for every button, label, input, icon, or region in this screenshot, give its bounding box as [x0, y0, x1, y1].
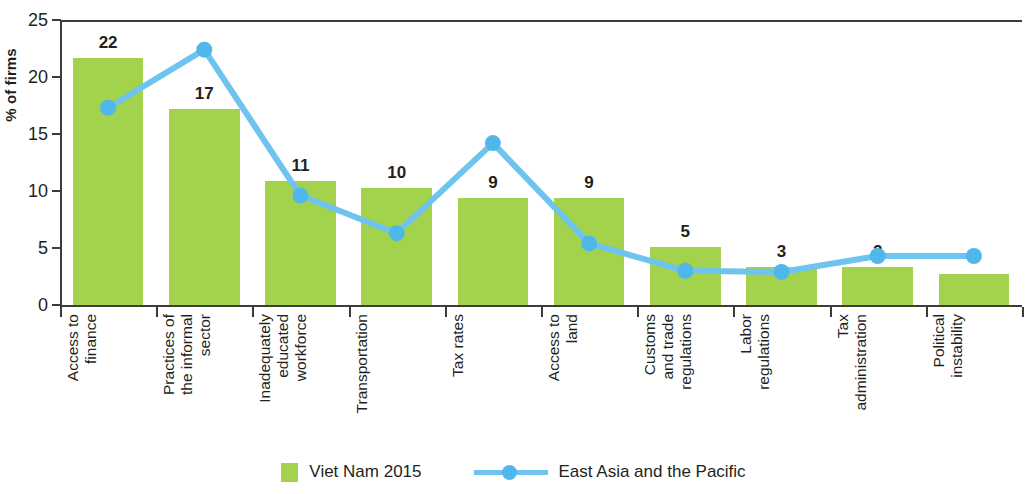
legend-bar-swatch-icon [281, 463, 298, 482]
bar [746, 267, 817, 305]
bar [939, 274, 1010, 305]
bar-value-label: 10 [349, 164, 445, 181]
x-axis-tick-mark [830, 307, 832, 317]
line-marker [485, 135, 501, 151]
line-marker [966, 248, 982, 264]
x-axis-category-label: Inadequately educated workforce [256, 314, 310, 432]
bar-value-label: 2 [830, 243, 926, 260]
plot-top-rule [60, 20, 1022, 22]
legend-item-east-asia-and-the-pacific: East Asia and the Pacific [474, 462, 746, 482]
bar-value-label: 9 [445, 174, 541, 191]
y-axis-tick-label: 5 [14, 239, 48, 257]
legend-item-viet-nam-2015: Viet Nam 2015 [281, 462, 421, 482]
x-axis-tick-mark [60, 307, 62, 317]
bar [265, 181, 336, 305]
bar [73, 58, 144, 305]
y-axis-tick-label: 0 [14, 296, 48, 314]
y-axis-tick-label: 10 [14, 182, 48, 200]
x-axis-category-label: Customs and trade regulations [641, 314, 695, 432]
x-axis-category-label: Tax rates [449, 314, 467, 432]
x-axis-category-label: Practices of the informal sector [160, 314, 214, 432]
legend-line-swatch-icon [474, 463, 548, 481]
bar-value-label: 5 [637, 223, 733, 240]
legend-label-viet-nam-2015: Viet Nam 2015 [309, 462, 421, 482]
bar-value-label: 3 [733, 243, 829, 260]
y-axis-tick-label: 20 [14, 68, 48, 86]
bar-value-label: 9 [541, 174, 637, 191]
x-axis-tick-mark [733, 307, 735, 317]
bar [842, 267, 913, 305]
x-axis-tick-mark [1022, 307, 1024, 317]
x-axis-tick-mark [349, 307, 351, 317]
y-axis-spine [60, 20, 62, 307]
x-axis-category-label: Access to finance [64, 314, 100, 432]
x-axis-tick-mark [637, 307, 639, 317]
bar [554, 198, 625, 305]
y-axis-tick-label: 15 [14, 125, 48, 143]
legend-label-east-asia-and-the-pacific: East Asia and the Pacific [559, 462, 746, 482]
chart-legend: Viet Nam 2015 East Asia and the Pacific [0, 462, 1027, 482]
line-marker [196, 42, 212, 58]
x-axis-category-label: Political instability [930, 314, 966, 432]
x-axis-category-label: Access to land [545, 314, 581, 432]
bar-value-label: 22 [60, 34, 156, 51]
bar [361, 188, 432, 305]
x-axis-tick-mark [252, 307, 254, 317]
bar [458, 198, 529, 305]
x-axis-tick-mark [541, 307, 543, 317]
bar-value-label: 11 [252, 157, 348, 174]
chart-container: % of firms 0510152025 2217111099532 Acce… [0, 0, 1027, 494]
bar [650, 247, 721, 305]
x-axis-category-label: Tax administration [834, 314, 870, 432]
x-axis-tick-mark [156, 307, 158, 317]
x-axis-tick-mark [926, 307, 928, 317]
bar [169, 109, 240, 305]
y-axis-tick-label: 25 [14, 11, 48, 29]
x-axis-category-label: Labor regulations [737, 314, 773, 432]
x-axis-tick-mark [445, 307, 447, 317]
x-axis-category-label: Transportation [353, 314, 371, 432]
bar-value-label: 17 [156, 85, 252, 102]
